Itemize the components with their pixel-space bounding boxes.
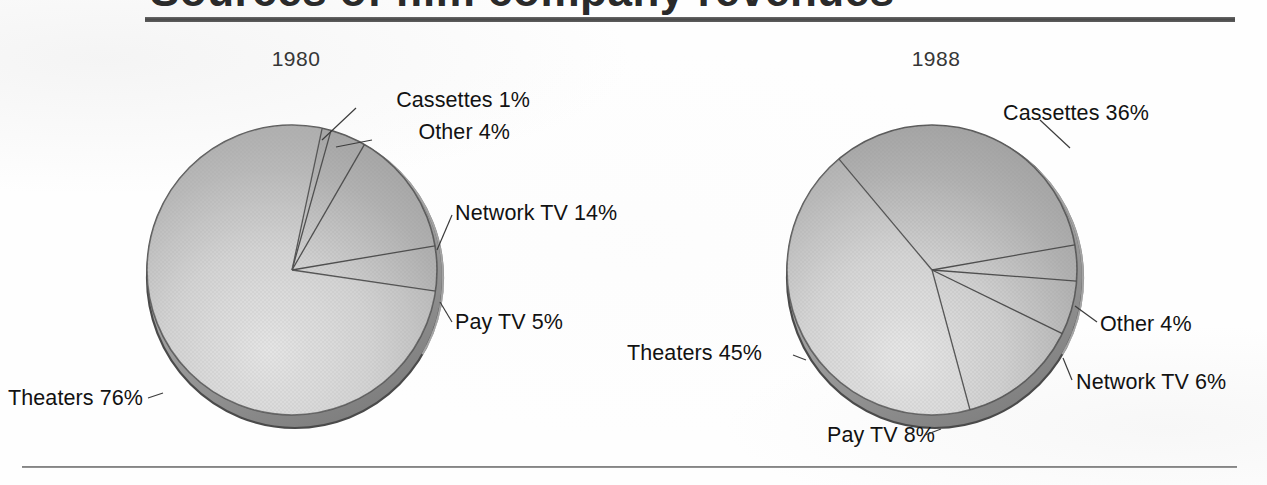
callout-other-1980: Other 4% xyxy=(200,120,510,144)
callout-network-tv-1988: Network TV 6% xyxy=(1076,370,1226,394)
callout-pay-tv-1980: Pay TV 5% xyxy=(455,310,563,334)
pie-graphic-1988 xyxy=(765,85,1105,465)
footer-rule xyxy=(22,466,1237,468)
callout-cassettes-1980: Cassettes 1% xyxy=(200,88,530,112)
callout-pay-tv-1988: Pay TV 8% xyxy=(827,423,935,447)
callout-other-1988: Other 4% xyxy=(1100,312,1192,336)
callout-network-tv-1980: Network TV 14% xyxy=(455,201,617,225)
year-label-1988: 1988 xyxy=(876,47,996,71)
callout-theaters-1980: Theaters 76% xyxy=(8,386,143,410)
callout-theaters-1988: Theaters 45% xyxy=(627,341,762,365)
chart-page: Sources of film company revenues 1980 xyxy=(0,0,1267,485)
header-rule xyxy=(145,17,1235,22)
year-label-1980: 1980 xyxy=(236,47,356,71)
callout-cassettes-1988: Cassettes 36% xyxy=(1003,101,1149,125)
clipped-title: Sources of film company revenues xyxy=(0,0,1267,16)
page-title: Sources of film company revenues xyxy=(150,0,895,16)
